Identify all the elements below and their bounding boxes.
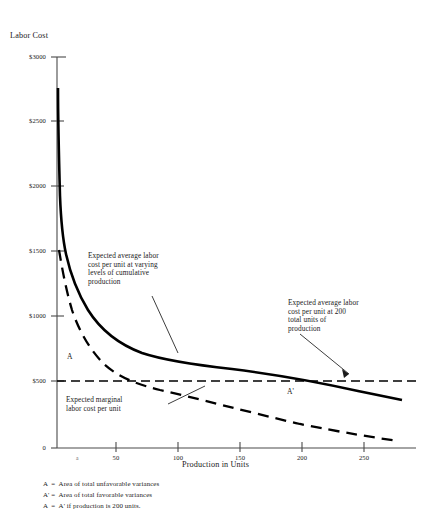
leader-line-avg-200 xyxy=(300,334,349,374)
area-label-a-prime: A' xyxy=(287,388,294,397)
annotation-marginal-cost: Expected marginal labor cost per unit xyxy=(66,396,122,413)
leader-line-marginal xyxy=(168,386,205,404)
labor-cost-chart: Labor Cost Production in Units $3000 $25… xyxy=(0,0,426,516)
x-tick-label-50: 50 xyxy=(104,454,128,462)
x-axis-ticks xyxy=(116,442,364,452)
y-tick-label-2500: $2500 xyxy=(12,117,46,125)
y-tick-label-500: $500 xyxy=(12,377,46,385)
average-cost-curve xyxy=(58,88,402,400)
x-tick-label-200: 200 xyxy=(290,454,314,462)
x-tick-label-100: 100 xyxy=(166,454,190,462)
leader-line-avg-varying xyxy=(152,296,178,353)
footnote-equality-at-200: A = A' if production is 200 units. xyxy=(43,502,141,510)
annotation-average-cost-varying: Expected average labor cost per unit at … xyxy=(88,252,159,286)
y-tick-label-3000: $3000 xyxy=(12,53,46,61)
area-label-a: A xyxy=(67,353,72,362)
footnote-favorable-variances: A' = Area of total favorable variances xyxy=(43,491,152,499)
footnote-unfavorable-variances: A = Area of total unfavorable variances xyxy=(43,480,159,488)
y-tick-label-0: 0 xyxy=(12,444,46,452)
y-tick-label-1500: $1500 xyxy=(12,247,46,255)
chart-plot-area xyxy=(0,0,426,516)
chart-y-axis-title: Labor Cost xyxy=(10,31,48,41)
x-tick-label-250: 250 xyxy=(352,454,376,462)
annotation-average-cost-at-200: Expected average labor cost per unit at … xyxy=(288,299,359,333)
x-tick-label-150: 150 xyxy=(228,454,252,462)
x-axis-marker-a: a xyxy=(76,455,78,462)
y-tick-label-1000: $1000 xyxy=(12,312,46,320)
y-tick-label-2000: $2000 xyxy=(12,182,46,190)
leader-arrowhead-avg-200 xyxy=(342,369,349,378)
